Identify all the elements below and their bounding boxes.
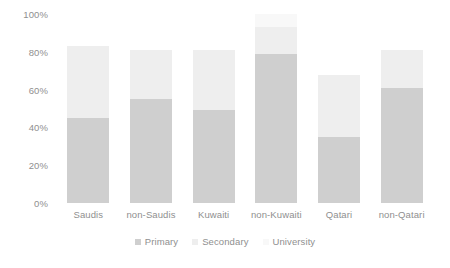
chart-legend: PrimarySecondaryUniversity bbox=[0, 236, 450, 247]
plot-area bbox=[57, 14, 433, 203]
legend-item-secondary[interactable]: Secondary bbox=[192, 236, 248, 247]
y-axis-tick-label: 0% bbox=[34, 198, 48, 209]
y-axis-tick-label: 40% bbox=[29, 122, 48, 133]
bar-group[interactable] bbox=[381, 14, 423, 203]
x-axis-tick-label: non-Qatari bbox=[379, 209, 425, 220]
legend-label: Primary bbox=[145, 236, 178, 247]
bar-group[interactable] bbox=[318, 14, 360, 203]
x-axis-tick-label: Saudis bbox=[74, 209, 104, 220]
bar-segment-secondary[interactable] bbox=[67, 46, 109, 118]
bar-stack bbox=[255, 14, 297, 203]
bar-segment-primary[interactable] bbox=[193, 110, 235, 203]
x-axis-tick-label: Qatari bbox=[326, 209, 352, 220]
y-axis-tick-label: 100% bbox=[23, 9, 48, 20]
bar-stack bbox=[67, 46, 109, 203]
bar-segment-secondary[interactable] bbox=[318, 75, 360, 137]
bar-stack bbox=[318, 75, 360, 204]
legend-swatch-icon bbox=[192, 239, 198, 245]
bar-segment-primary[interactable] bbox=[255, 54, 297, 203]
stacked-bar-chart: 0%20%40%60%80%100% PrimarySecondaryUnive… bbox=[0, 0, 450, 268]
bar-segment-secondary[interactable] bbox=[381, 50, 423, 88]
bar-group[interactable] bbox=[193, 14, 235, 203]
bar-segment-secondary[interactable] bbox=[255, 27, 297, 53]
bar-segment-primary[interactable] bbox=[67, 118, 109, 203]
bar-segment-primary[interactable] bbox=[130, 99, 172, 203]
bar-segment-primary[interactable] bbox=[318, 137, 360, 203]
legend-label: Secondary bbox=[202, 236, 248, 247]
y-axis-tick-label: 60% bbox=[29, 84, 48, 95]
y-axis-tick-label: 80% bbox=[29, 46, 48, 57]
x-axis-tick-label: Kuwaiti bbox=[198, 209, 229, 220]
legend-label: University bbox=[273, 236, 316, 247]
legend-item-university[interactable]: University bbox=[263, 236, 316, 247]
bar-stack bbox=[193, 50, 235, 203]
y-axis-tick-label: 20% bbox=[29, 160, 48, 171]
legend-swatch-icon bbox=[135, 239, 141, 245]
bar-segment-university[interactable] bbox=[255, 14, 297, 27]
x-axis-tick-label: non-Saudis bbox=[126, 209, 175, 220]
legend-swatch-icon bbox=[263, 239, 269, 245]
x-axis-tick-label: non-Kuwaiti bbox=[251, 209, 302, 220]
bar-group[interactable] bbox=[130, 14, 172, 203]
legend-item-primary[interactable]: Primary bbox=[135, 236, 178, 247]
bar-stack bbox=[130, 50, 172, 203]
bar-group[interactable] bbox=[67, 14, 109, 203]
bar-group[interactable] bbox=[255, 14, 297, 203]
y-axis: 0%20%40%60%80%100% bbox=[0, 0, 57, 217]
bar-segment-secondary[interactable] bbox=[130, 50, 172, 99]
bar-stack bbox=[381, 50, 423, 203]
bar-segment-secondary[interactable] bbox=[193, 50, 235, 110]
bar-segment-primary[interactable] bbox=[381, 88, 423, 203]
